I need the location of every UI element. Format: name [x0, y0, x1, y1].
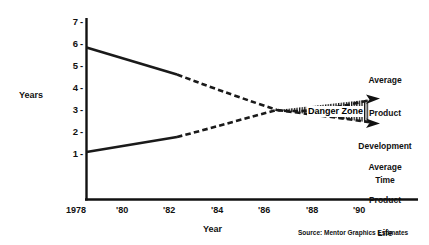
series-average-product-development-time	[87, 48, 381, 112]
y-axis-title: Years	[19, 90, 43, 101]
upper-series-annotation-line-1: Average	[344, 75, 426, 86]
source-credit: Source: Mentor Graphics Estimates	[298, 229, 408, 237]
lower-series-annotation-line-2: Product	[344, 195, 426, 206]
y-tick-label-5: 5	[60, 60, 78, 71]
x-axis-title: Year	[203, 224, 222, 235]
x-tick-label-80: '80	[116, 205, 128, 216]
lower-series-annotation-line-1: Average	[344, 162, 426, 173]
x-tick-label-82: '82	[163, 205, 175, 216]
x-tick-label-86: '86	[258, 205, 270, 216]
y-tick-mark-4: -	[80, 82, 83, 93]
y-tick-label-7: 7	[60, 16, 78, 27]
y-tick-mark-1: -	[80, 148, 83, 159]
y-tick-mark-7: -	[80, 16, 83, 27]
y-tick-label-2: 2	[60, 126, 78, 137]
danger-zone-label: Danger Zone	[307, 106, 364, 117]
x-tick-label-1978: 1978	[66, 205, 86, 216]
y-tick-mark-2: -	[80, 126, 83, 137]
y-tick-mark-5: -	[80, 60, 83, 71]
x-tick-label-88: '88	[306, 205, 318, 216]
y-tick-label-3: 3	[60, 104, 78, 115]
y-tick-label-6: 6	[60, 38, 78, 49]
y-tick-label-1: 1	[60, 148, 78, 159]
chart-container: Years 7 - 6 - 5 - 4 - 3 - 2 - 1 - 1978 '…	[0, 0, 429, 245]
x-tick-label-84: '84	[211, 205, 223, 216]
y-tick-label-4: 4	[60, 82, 78, 93]
y-tick-mark-6: -	[80, 38, 83, 49]
y-tick-mark-3: -	[80, 104, 83, 115]
